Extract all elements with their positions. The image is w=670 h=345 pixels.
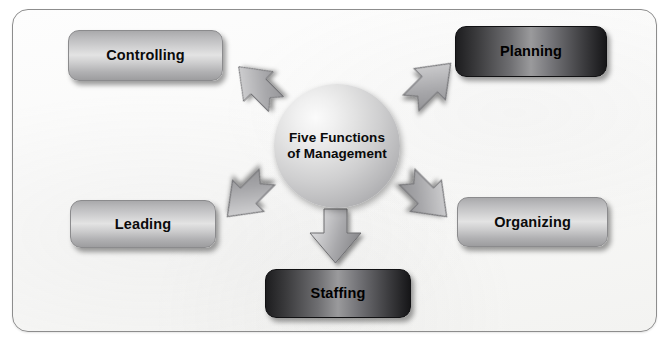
center-sphere-label: Five Functions of Management [287, 130, 387, 163]
center-sphere: Five Functions of Management [274, 84, 400, 208]
function-box-staffing[interactable]: Staffing [265, 269, 411, 318]
diagram-canvas: Five Functions of Management Controlling… [0, 0, 670, 345]
arrow-down-icon [303, 206, 373, 270]
function-box-organizing-label: Organizing [494, 215, 571, 230]
center-label-line1: Five Functions [289, 130, 385, 145]
function-box-staffing-label: Staffing [311, 286, 366, 301]
function-box-planning-label: Planning [500, 44, 562, 59]
arrow-up-right-icon [388, 50, 464, 126]
function-box-organizing[interactable]: Organizing [457, 197, 608, 247]
function-box-controlling-label: Controlling [106, 48, 184, 63]
function-box-leading-label: Leading [115, 217, 171, 232]
center-label-line2: of Management [287, 146, 387, 161]
function-box-controlling[interactable]: Controlling [68, 30, 223, 81]
function-box-leading[interactable]: Leading [70, 200, 216, 248]
function-box-planning[interactable]: Planning [455, 26, 607, 77]
